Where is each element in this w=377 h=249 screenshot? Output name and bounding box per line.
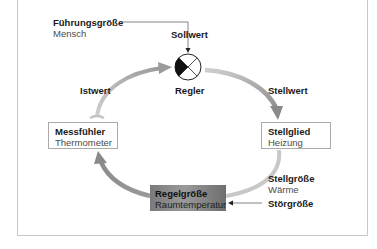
actual-value-label: Istwert (80, 85, 111, 96)
controlled-variable-arrow (94, 151, 150, 196)
controller-label: Regler (175, 85, 205, 96)
control-value-label: Stellwert (268, 85, 308, 96)
manipulated-variable-subtitle: Wärme (268, 184, 299, 195)
controlled-variable-subtitle: Raumtemperatur (155, 199, 226, 210)
reference-variable-title: Führungsgröße (53, 17, 123, 28)
actuator-title: Stellglied (268, 126, 330, 137)
setpoint-label: Sollwert (171, 29, 208, 40)
controller-symbol-icon (175, 54, 201, 80)
actuator-subtitle: Heizung (268, 137, 330, 148)
actuator-box: Stellglied Heizung (261, 122, 331, 149)
disturbance-label: Störgröße (268, 198, 313, 209)
sensor-subtitle: Thermometer (55, 137, 117, 148)
disturbance-arrow (228, 201, 262, 206)
controlled-variable-box: Regelgröße Raumtemperatur (150, 185, 226, 211)
reference-variable-subtitle: Mensch (53, 28, 86, 39)
sensor-box: Messfühler Thermometer (48, 122, 118, 149)
manipulated-variable-title: Stellgröße (268, 173, 314, 184)
controlled-variable-title: Regelgröße (155, 188, 226, 199)
sensor-title: Messfühler (55, 126, 117, 137)
